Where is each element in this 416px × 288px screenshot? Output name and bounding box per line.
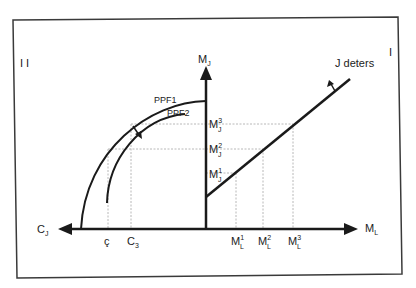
x-tick-c3: C3	[127, 235, 139, 249]
ppf2-curve	[107, 114, 185, 203]
y-tick-mj3: M3J	[209, 117, 222, 133]
ppf-diagram: I I I MJ ML CJ PPF1 PPF2 J deters M3J M2…	[0, 0, 416, 288]
quadrant-ii-label: I I	[20, 57, 29, 69]
ppf-shift-arrow-icon	[133, 126, 142, 139]
line-shift-arrow-icon	[327, 80, 335, 91]
ppf1-curve	[81, 101, 206, 229]
y-tick-mj2: M2J	[209, 142, 222, 158]
j-deters-line	[206, 79, 350, 197]
x-tick-ml3: M3L	[288, 234, 301, 250]
x-tick-ml1: M1L	[231, 234, 244, 250]
horizontal-axis-right-label: ML	[365, 222, 378, 236]
x-tick-c-cedilla: ç	[104, 235, 110, 247]
y-tick-mj1: M1J	[209, 167, 222, 183]
quadrant-i-label: I	[389, 46, 392, 58]
axes	[58, 66, 358, 235]
guide-lines	[108, 124, 293, 229]
ppf2-label: PPF2	[167, 108, 190, 118]
x-tick-ml2: M2L	[258, 234, 271, 250]
ppf1-label: PPF1	[154, 95, 177, 105]
j-deters-label: J deters	[335, 57, 375, 69]
vertical-axis-label: MJ	[198, 53, 211, 67]
horizontal-axis-left-label: CJ	[37, 223, 48, 237]
